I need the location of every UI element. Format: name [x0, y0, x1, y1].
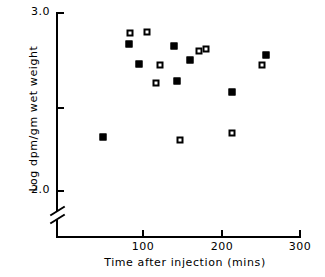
data-point-open-square [203, 46, 210, 53]
y-tick-2-0 [58, 190, 64, 192]
y-tick-3-0 [58, 12, 64, 14]
axis-break-marker [48, 203, 66, 227]
data-point-filled-square [99, 133, 106, 140]
data-point-open-square [259, 62, 266, 69]
x-tick-100 [142, 230, 144, 236]
data-point-open-square [229, 130, 236, 137]
x-tick-200 [221, 230, 223, 236]
data-point-filled-square [174, 78, 181, 85]
data-point-open-square [127, 30, 134, 37]
data-point-open-square [195, 48, 202, 55]
data-point-filled-square [229, 89, 236, 96]
data-point-filled-square [171, 42, 178, 49]
x-tick-label-200: 200 [202, 240, 242, 253]
data-point-open-square [143, 28, 150, 35]
x-axis-line [56, 236, 301, 238]
y-axis-title: Log dpm/gm wet weight [27, 24, 40, 214]
data-point-open-square [153, 80, 160, 87]
x-tick-300 [299, 230, 301, 236]
x-tick-label-300: 300 [280, 240, 320, 253]
x-axis-title: Time after injection (mins) [60, 256, 310, 269]
data-point-open-square [176, 137, 183, 144]
data-point-open-square [157, 62, 164, 69]
data-point-filled-square [263, 51, 270, 58]
data-point-filled-square [126, 41, 133, 48]
scatter-plot-figure: 3.0 2.0 100 200 300 Time after injection… [0, 0, 325, 277]
y-tick-label-3-0: 3.0 [16, 5, 50, 18]
y-tick-2-5 [58, 107, 64, 109]
x-tick-label-100: 100 [123, 240, 163, 253]
data-point-filled-square [135, 60, 142, 67]
data-point-filled-square [186, 57, 193, 64]
